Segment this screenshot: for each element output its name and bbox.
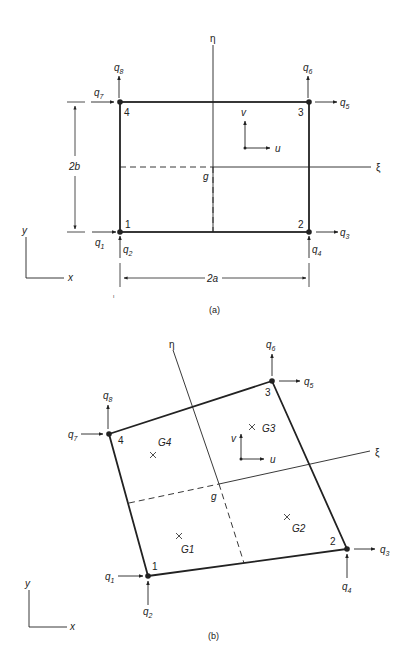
cross-marker-icon [150, 452, 156, 458]
caption-b: (b) [208, 631, 219, 641]
node-2-label: 2 [298, 219, 304, 230]
node-1-b [145, 573, 151, 579]
eta-label: η [210, 33, 216, 44]
node-1-label: 1 [125, 219, 131, 230]
center-label-g: g [203, 171, 209, 182]
axis-y-label: y [21, 225, 28, 236]
dim-2b-label: 2b [68, 161, 81, 172]
axis-x-label-b: x [69, 621, 76, 632]
gauss-point-g4: G4 [150, 437, 172, 458]
gauss-point-g3: G3 [249, 423, 276, 434]
dof-q1-label-b: q1 [105, 571, 115, 584]
dim-2a-label: 2a [206, 273, 219, 284]
eta-label-b: η [169, 339, 175, 350]
node-3-b [269, 378, 275, 384]
axis-x-label: x [67, 272, 74, 283]
dashed-eta-line-b [219, 484, 244, 563]
node-1 [117, 229, 123, 235]
u-label-b: u [270, 454, 276, 465]
dof-q2-label: q2 [123, 244, 133, 257]
xi-label: ξ [376, 162, 381, 174]
dashed-xi-line-b [129, 484, 219, 503]
dof-q7-label: q7 [94, 87, 105, 100]
v-label: v [241, 107, 247, 118]
dof-q4-label: q4 [312, 244, 322, 257]
xi-label-b: ξ [375, 447, 380, 459]
dof-q1-label: q1 [95, 237, 105, 250]
svg-text:G3: G3 [262, 423, 276, 434]
svg-text:G1: G1 [181, 544, 194, 555]
cross-marker-icon [284, 514, 290, 520]
node-4 [117, 99, 123, 105]
stray-tick-mark: ı [113, 293, 114, 299]
axis-y-label-b: y [24, 578, 31, 589]
svg-text:G4: G4 [158, 437, 172, 448]
dof-q3-label-b: q3 [380, 544, 390, 557]
dof-q2-label-b: q2 [143, 606, 153, 619]
dof-q8-label: q8 [114, 62, 124, 75]
dof-q3-label: q3 [340, 227, 350, 240]
node-1-label-b: 1 [152, 561, 158, 572]
center-label-g-b: g [211, 491, 217, 502]
node-4-label: 4 [124, 107, 130, 118]
dof-q4-label-b: q4 [342, 581, 352, 594]
node-3-label: 3 [298, 107, 304, 118]
dof-q6-label: q6 [303, 62, 313, 75]
element-quadrilateral [109, 381, 347, 576]
dof-q6-label-b: q6 [266, 339, 276, 352]
gauss-point-g1: G1 [176, 533, 194, 555]
caption-a: (a) [209, 305, 220, 315]
cross-marker-icon [249, 424, 255, 430]
figure-b: η ξ g 1 2 3 4 q1 q2 q3 q4 q5 q6 q7 [24, 339, 390, 641]
figure-a: η ξ g 1 2 3 4 q1 q2 q3 q4 q5 q6 q7 [21, 33, 381, 315]
dof-q7-label-b: q7 [68, 429, 79, 442]
v-label-b: v [231, 433, 237, 444]
dof-q8-label-b: q8 [103, 390, 113, 403]
node-2 [306, 229, 312, 235]
figure-canvas: η ξ g 1 2 3 4 q1 q2 q3 q4 q5 q6 q7 [0, 0, 405, 654]
svg-text:G2: G2 [292, 523, 306, 534]
xi-axis-b [219, 451, 370, 484]
gauss-point-g2: G2 [284, 514, 306, 534]
node-4-b [106, 431, 112, 437]
dof-q5-label: q5 [340, 97, 350, 110]
dof-q5-label-b: q5 [304, 376, 314, 389]
cross-marker-icon [176, 533, 182, 539]
node-2-b [344, 546, 350, 552]
eta-axis-b [173, 350, 219, 484]
node-4-label-b: 4 [118, 435, 124, 446]
node-3-label-b: 3 [265, 387, 271, 398]
u-label: u [275, 143, 281, 154]
node-3 [306, 99, 312, 105]
node-2-label-b: 2 [330, 536, 336, 547]
